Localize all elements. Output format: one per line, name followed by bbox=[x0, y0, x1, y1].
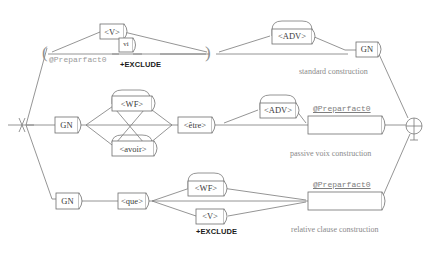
node-box-wf-mid[interactable] bbox=[112, 96, 155, 111]
node-box-vi-top[interactable] bbox=[119, 38, 136, 52]
start-branch-fan bbox=[26, 48, 52, 199]
grammar-graph-canvas: ( ) <V> vi <ADV> GN @Preparfact0 +EXCLUD… bbox=[0, 0, 435, 255]
node-box-avoir-mid[interactable] bbox=[112, 141, 157, 156]
node-box-v-bot[interactable] bbox=[196, 209, 227, 224]
caption-standard-construction: standard construction bbox=[299, 68, 368, 76]
subgraph-ref-preparfact-top[interactable]: @Preparfact0 bbox=[49, 56, 107, 64]
node-box-preparfact-bot[interactable] bbox=[308, 192, 385, 210]
graph-edges-layer bbox=[0, 0, 435, 255]
node-box-wf-bot[interactable] bbox=[188, 181, 227, 196]
node-box-gn-top[interactable] bbox=[356, 42, 381, 57]
caption-relative-clause-construction: relative clause construction bbox=[291, 226, 379, 234]
node-box-adv-top[interactable] bbox=[272, 29, 315, 44]
node-box-gn-bot[interactable] bbox=[56, 193, 82, 209]
group-close-paren: ) bbox=[205, 44, 211, 61]
exclude-tag-bottom: +EXCLUDE bbox=[196, 228, 237, 236]
group-open-paren: ( bbox=[42, 44, 48, 61]
node-box-v-top[interactable] bbox=[100, 24, 127, 39]
node-box-preparfact-mid[interactable] bbox=[308, 116, 385, 134]
node-box-adv-mid[interactable] bbox=[260, 103, 299, 118]
node-box-que-bot[interactable] bbox=[118, 193, 149, 209]
caption-passive-voix-construction: passive voix construction bbox=[290, 150, 371, 158]
node-box-gn-mid[interactable] bbox=[55, 117, 81, 133]
subgraph-ref-preparfact-bot[interactable]: @Preparfact0 bbox=[313, 181, 371, 189]
subgraph-ref-preparfact-mid[interactable]: @Preparfact0 bbox=[313, 105, 371, 113]
node-box-etre-mid[interactable] bbox=[178, 117, 215, 133]
exclude-tag-top: +EXCLUDE bbox=[120, 61, 161, 69]
